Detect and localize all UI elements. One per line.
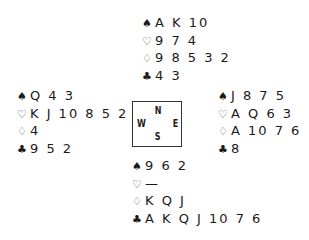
north-spades: ♠A K 10 (142, 14, 231, 32)
east-spades-cards: J 8 7 5 (231, 88, 286, 103)
east-hearts: ♡A Q 6 3 (218, 105, 301, 123)
north-diamonds-cards: 9 8 5 3 2 (155, 50, 231, 65)
west-clubs: ♣9 5 2 (17, 140, 128, 158)
compass-north: N (155, 105, 162, 116)
west-spades: ♠Q 4 3 (17, 87, 128, 105)
club-icon: ♣ (132, 211, 145, 229)
east-diamonds: ♢A 10 7 6 (218, 122, 301, 140)
east-diamonds-cards: A 10 7 6 (231, 123, 301, 138)
diamond-icon: ♢ (132, 193, 145, 211)
east-spades: ♠J 8 7 5 (218, 87, 301, 105)
diamond-icon: ♢ (218, 123, 231, 141)
spade-icon: ♠ (17, 88, 30, 106)
heart-icon: ♡ (218, 106, 231, 124)
south-diamonds: ♢K Q J (132, 192, 262, 210)
heart-icon: ♡ (142, 33, 155, 51)
club-icon: ♣ (142, 68, 155, 86)
heart-icon: ♡ (17, 106, 30, 124)
south-hearts-cards: — (145, 176, 160, 191)
west-hearts: ♡K J 10 8 5 2 (17, 105, 128, 123)
south-hand: ♠9 6 2 ♡— ♢K Q J ♣A K Q J 10 7 6 (132, 157, 262, 227)
east-clubs-cards: 8 (231, 141, 241, 156)
west-hearts-cards: K J 10 8 5 2 (30, 106, 128, 121)
north-hearts-cards: 9 7 4 (155, 33, 198, 48)
south-hearts: ♡— (132, 175, 262, 193)
compass-east: E (173, 118, 178, 129)
north-clubs: ♣4 3 (142, 67, 231, 85)
north-hearts: ♡9 7 4 (142, 32, 231, 50)
compass-box: N W E S (132, 101, 182, 147)
diamond-icon: ♢ (142, 50, 155, 68)
north-diamonds: ♢9 8 5 3 2 (142, 49, 231, 67)
west-diamonds-cards: 4 (30, 123, 40, 138)
club-icon: ♣ (17, 141, 30, 159)
west-clubs-cards: 9 5 2 (30, 141, 73, 156)
south-clubs: ♣A K Q J 10 7 6 (132, 210, 262, 228)
north-hand: ♠A K 10 ♡9 7 4 ♢9 8 5 3 2 ♣4 3 (142, 14, 231, 84)
south-spades: ♠9 6 2 (132, 157, 262, 175)
west-spades-cards: Q 4 3 (30, 88, 75, 103)
compass-south: S (155, 131, 161, 142)
east-hand: ♠J 8 7 5 ♡A Q 6 3 ♢A 10 7 6 ♣8 (218, 87, 301, 157)
diamond-icon: ♢ (17, 123, 30, 141)
heart-icon: ♡ (132, 176, 145, 194)
west-diamonds: ♢4 (17, 122, 128, 140)
south-diamonds-cards: K Q J (145, 193, 186, 208)
north-spades-cards: A K 10 (155, 15, 209, 30)
north-clubs-cards: 4 3 (155, 68, 182, 83)
spade-icon: ♠ (142, 15, 155, 33)
compass-west: W (137, 118, 146, 129)
east-clubs: ♣8 (218, 140, 301, 158)
south-spades-cards: 9 6 2 (145, 158, 188, 173)
club-icon: ♣ (218, 141, 231, 159)
east-hearts-cards: A Q 6 3 (231, 106, 293, 121)
spade-icon: ♠ (132, 158, 145, 176)
west-hand: ♠Q 4 3 ♡K J 10 8 5 2 ♢4 ♣9 5 2 (17, 87, 128, 157)
spade-icon: ♠ (218, 88, 231, 106)
south-clubs-cards: A K Q J 10 7 6 (145, 211, 262, 226)
